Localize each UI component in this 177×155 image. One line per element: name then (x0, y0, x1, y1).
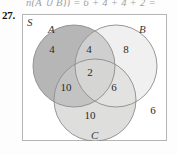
venn-diagram-figure: n(A ∪ B)) = 6 + 4 + 4 + 2 = 27. (0, 0, 177, 155)
region-value-a-and-c: 10 (57, 82, 75, 93)
set-label-A: A (48, 24, 55, 35)
set-label-B: B (139, 24, 146, 35)
region-value-a-only: 4 (43, 44, 61, 55)
region-value-b-and-c: 6 (105, 82, 123, 93)
set-label-S: S (27, 17, 33, 28)
region-value-outside: 6 (144, 105, 162, 116)
region-value-c-only: 10 (81, 110, 99, 121)
cut-off-math-line: n(A ∪ B)) = 6 + 4 + 4 + 2 = (26, 0, 176, 7)
region-value-a-and-b-and-c: 2 (81, 67, 99, 78)
region-value-b-only: 8 (117, 44, 135, 55)
problem-number: 27. (2, 9, 15, 21)
set-label-C: C (91, 130, 98, 141)
region-value-a-and-b: 4 (80, 44, 98, 55)
